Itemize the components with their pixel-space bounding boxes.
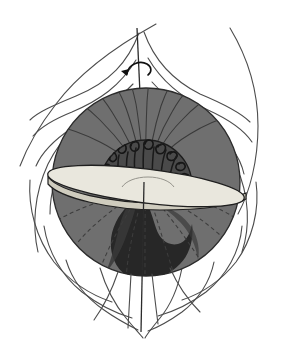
star-magnetosphere-diagram: Magnetized star with accretion disk and … [0,0,285,347]
figure-root: Magnetized star with accretion disk and … [0,0,285,347]
